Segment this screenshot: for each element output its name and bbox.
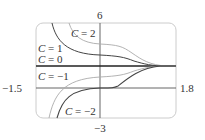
label-cm2: C = −2 [65,106,96,117]
solution-curves-plot [0,0,205,140]
label-c0: C = 0 [38,54,63,65]
y-max-label: 6 [97,10,103,21]
x-min-label: −1.5 [2,83,22,94]
label-c2: C = 2 [71,28,96,39]
y-min-label: −3 [94,123,106,134]
label-cm1: C = −1 [38,71,69,82]
x-max-label: 1.8 [180,83,194,94]
